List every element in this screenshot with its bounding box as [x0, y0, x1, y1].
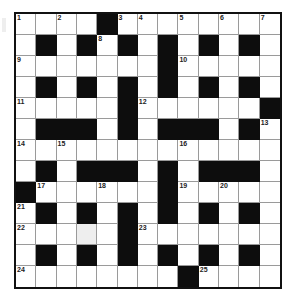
answer-cell[interactable]: 10 [178, 56, 198, 77]
answer-cell[interactable] [118, 182, 138, 203]
answer-cell[interactable]: 21 [16, 203, 36, 224]
answer-cell[interactable] [260, 35, 280, 56]
answer-cell[interactable] [199, 98, 219, 119]
answer-cell[interactable] [16, 77, 36, 98]
answer-cell[interactable] [57, 98, 77, 119]
answer-cell[interactable] [178, 98, 198, 119]
answer-cell[interactable] [36, 56, 56, 77]
answer-cell[interactable] [158, 266, 178, 287]
answer-cell[interactable] [219, 56, 239, 77]
answer-cell[interactable] [138, 245, 158, 266]
answer-cell[interactable] [239, 266, 259, 287]
answer-cell[interactable] [219, 266, 239, 287]
answer-cell[interactable] [57, 203, 77, 224]
answer-cell[interactable] [178, 77, 198, 98]
answer-cell[interactable]: 18 [97, 182, 117, 203]
answer-cell[interactable] [57, 77, 77, 98]
answer-cell[interactable]: 7 [260, 14, 280, 35]
answer-cell[interactable]: 1 [16, 14, 36, 35]
answer-cell[interactable]: 16 [178, 140, 198, 161]
answer-cell[interactable] [118, 56, 138, 77]
answer-cell[interactable]: 3 [118, 14, 138, 35]
answer-cell[interactable] [178, 35, 198, 56]
answer-cell[interactable] [260, 245, 280, 266]
answer-cell[interactable]: 24 [16, 266, 36, 287]
answer-cell[interactable] [260, 266, 280, 287]
answer-cell[interactable] [57, 56, 77, 77]
answer-cell[interactable] [239, 182, 259, 203]
answer-cell[interactable] [138, 203, 158, 224]
answer-cell[interactable] [36, 140, 56, 161]
answer-cell[interactable] [97, 203, 117, 224]
answer-cell[interactable] [36, 98, 56, 119]
answer-cell[interactable]: 2 [57, 14, 77, 35]
answer-cell[interactable]: 20 [219, 182, 239, 203]
answer-cell[interactable] [199, 140, 219, 161]
answer-cell[interactable]: 17 [36, 182, 56, 203]
answer-cell[interactable] [57, 224, 77, 245]
answer-cell[interactable] [97, 245, 117, 266]
answer-cell[interactable] [260, 56, 280, 77]
answer-cell[interactable] [138, 35, 158, 56]
answer-cell[interactable]: 11 [16, 98, 36, 119]
answer-cell[interactable] [219, 140, 239, 161]
answer-cell[interactable] [97, 266, 117, 287]
answer-cell[interactable] [77, 182, 97, 203]
answer-cell[interactable] [219, 119, 239, 140]
answer-cell[interactable] [16, 245, 36, 266]
answer-cell[interactable] [158, 224, 178, 245]
answer-cell[interactable] [260, 224, 280, 245]
answer-cell[interactable] [178, 203, 198, 224]
answer-cell[interactable] [77, 56, 97, 77]
answer-cell[interactable] [199, 224, 219, 245]
answer-cell[interactable] [158, 140, 178, 161]
answer-cell[interactable] [36, 266, 56, 287]
answer-cell[interactable] [97, 119, 117, 140]
answer-cell[interactable]: 8 [97, 35, 117, 56]
answer-cell[interactable] [77, 224, 97, 245]
answer-cell[interactable] [97, 56, 117, 77]
answer-cell[interactable] [77, 140, 97, 161]
answer-cell[interactable] [219, 245, 239, 266]
answer-cell[interactable] [138, 161, 158, 182]
answer-cell[interactable] [77, 98, 97, 119]
answer-cell[interactable] [138, 266, 158, 287]
answer-cell[interactable]: 25 [199, 266, 219, 287]
answer-cell[interactable] [57, 182, 77, 203]
answer-cell[interactable] [219, 35, 239, 56]
answer-cell[interactable] [36, 14, 56, 35]
answer-cell[interactable] [260, 182, 280, 203]
answer-cell[interactable] [16, 35, 36, 56]
answer-cell[interactable] [118, 140, 138, 161]
answer-cell[interactable] [219, 77, 239, 98]
answer-cell[interactable] [199, 14, 219, 35]
answer-cell[interactable]: 14 [16, 140, 36, 161]
answer-cell[interactable] [138, 56, 158, 77]
answer-cell[interactable] [219, 203, 239, 224]
answer-cell[interactable] [178, 245, 198, 266]
answer-cell[interactable] [97, 77, 117, 98]
answer-cell[interactable]: 6 [219, 14, 239, 35]
answer-cell[interactable] [77, 14, 97, 35]
answer-cell[interactable]: 12 [138, 98, 158, 119]
answer-cell[interactable]: 5 [178, 14, 198, 35]
answer-cell[interactable] [260, 203, 280, 224]
answer-cell[interactable] [16, 161, 36, 182]
answer-cell[interactable] [199, 182, 219, 203]
answer-cell[interactable] [138, 119, 158, 140]
answer-cell[interactable] [36, 224, 56, 245]
answer-cell[interactable] [57, 161, 77, 182]
answer-cell[interactable] [239, 14, 259, 35]
answer-cell[interactable]: 22 [16, 224, 36, 245]
answer-cell[interactable]: 19 [178, 182, 198, 203]
answer-cell[interactable] [219, 98, 239, 119]
answer-cell[interactable] [57, 245, 77, 266]
answer-cell[interactable] [260, 140, 280, 161]
answer-cell[interactable]: 23 [138, 224, 158, 245]
answer-cell[interactable]: 4 [138, 14, 158, 35]
answer-cell[interactable] [239, 56, 259, 77]
answer-cell[interactable] [138, 140, 158, 161]
answer-cell[interactable] [178, 161, 198, 182]
answer-cell[interactable] [158, 98, 178, 119]
answer-cell[interactable] [118, 266, 138, 287]
